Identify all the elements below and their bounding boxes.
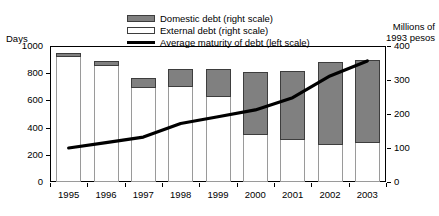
bar-segment-external-2003	[355, 143, 380, 182]
bar-2002	[318, 62, 343, 182]
right-axis-tickmark-400	[387, 46, 391, 47]
left-axis-tick-0: 0	[3, 177, 43, 187]
bar-1996	[94, 61, 119, 182]
x-axis-tickmark-1	[87, 183, 88, 187]
right-axis-tickmark-100	[387, 148, 391, 149]
left-axis-tick-400: 400	[3, 123, 43, 133]
right-axis-unit-label-line1: Millions of	[355, 21, 435, 32]
chart-legend: Domestic debt (right scale) External deb…	[127, 13, 357, 49]
x-axis-tickmark-7	[311, 183, 312, 187]
right-axis-tickmark-300	[387, 80, 391, 81]
x-axis-tick-1998: 1998	[161, 189, 201, 200]
x-axis-tick-2000: 2000	[235, 189, 275, 200]
right-axis-tick-200: 200	[394, 109, 434, 119]
x-axis-tickmark-8	[349, 183, 350, 187]
filled-gray-swatch-icon	[127, 15, 155, 22]
plot-area	[50, 46, 386, 182]
bar-segment-external-2000	[243, 135, 268, 182]
bar-segment-external-1995	[56, 57, 81, 182]
left-axis-tick-1000: 1000	[3, 41, 43, 51]
bar-1997	[131, 78, 156, 182]
x-axis-tick-2002: 2002	[310, 189, 350, 200]
legend-label-external-debt: External debt (right scale)	[160, 26, 268, 36]
bar-segment-domestic-1998	[168, 69, 193, 87]
left-axis-tick-600: 600	[3, 95, 43, 105]
chart-figure: Domestic debt (right scale) External deb…	[0, 0, 439, 216]
legend-label-domestic-debt: Domestic debt (right scale)	[160, 14, 273, 24]
bar-1999	[206, 69, 231, 182]
hollow-white-swatch-icon	[127, 27, 155, 34]
x-axis-tickmark-6	[274, 183, 275, 187]
right-axis-tick-100: 100	[394, 143, 434, 153]
bar-segment-domestic-1999	[206, 69, 231, 97]
bar-segment-domestic-1997	[131, 78, 156, 88]
x-axis-tick-1997: 1997	[123, 189, 163, 200]
bar-1998	[168, 69, 193, 182]
left-axis-tick-800: 800	[3, 68, 43, 78]
bar-2003	[355, 60, 380, 182]
bar-segment-external-1996	[94, 66, 119, 182]
x-axis-tickmark-5	[237, 183, 238, 187]
right-axis-tick-0: 0	[394, 177, 434, 187]
right-axis-tick-300: 300	[394, 75, 434, 85]
bar-segment-external-1999	[206, 97, 231, 182]
left-axis-tick-200: 200	[3, 150, 43, 160]
bar-segment-domestic-2000	[243, 72, 268, 135]
bar-segment-domestic-2003	[355, 60, 380, 143]
x-axis-tick-2003: 2003	[347, 189, 387, 200]
x-axis-tickmark-4	[199, 183, 200, 187]
x-axis-tick-1995: 1995	[49, 189, 89, 200]
x-axis-tick-2001: 2001	[273, 189, 313, 200]
x-axis-tickmark-9	[386, 183, 387, 187]
bar-segment-domestic-2001	[280, 71, 305, 140]
bar-1995	[56, 53, 81, 182]
legend-item-external-debt: External debt (right scale)	[127, 25, 357, 36]
x-axis-tick-1999: 1999	[198, 189, 238, 200]
bar-2000	[243, 72, 268, 182]
legend-item-domestic-debt: Domestic debt (right scale)	[127, 13, 357, 24]
x-axis-tickmark-0	[50, 183, 51, 187]
x-axis-tickmark-2	[125, 183, 126, 187]
right-axis-tickmark-0	[387, 182, 391, 183]
bar-2001	[280, 71, 305, 182]
bar-segment-external-2002	[318, 145, 343, 182]
x-axis-tick-1996: 1996	[86, 189, 126, 200]
bar-segment-external-1997	[131, 88, 156, 182]
black-line-swatch-icon	[127, 41, 155, 44]
x-axis-tickmark-3	[162, 183, 163, 187]
bar-segment-external-2001	[280, 140, 305, 182]
right-axis-tick-400: 400	[394, 41, 434, 51]
right-axis-tickmark-200	[387, 114, 391, 115]
bar-segment-external-1998	[168, 87, 193, 182]
bar-segment-domestic-2002	[318, 62, 343, 145]
